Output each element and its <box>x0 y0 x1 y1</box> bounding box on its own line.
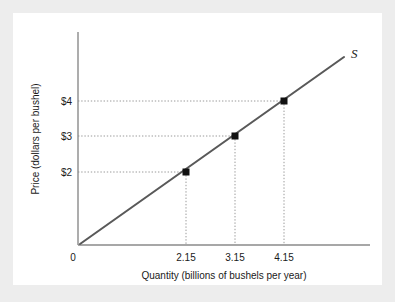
y-axis-title: Price (dollars per bushel) <box>30 83 41 194</box>
x-tick-label-215: 2.15 <box>176 252 196 263</box>
x-axis-title: Quantity (billions of bushels per year) <box>141 270 306 281</box>
y-tick-label-2: $2 <box>61 167 73 178</box>
data-point-marker-415[interactable] <box>281 98 288 105</box>
figure-frame: S $4 $3 $2 2.15 3.15 4.15 0 <box>0 0 395 302</box>
y-axis-tick-labels: $4 $3 $2 <box>61 96 73 178</box>
figure-panel: S $4 $3 $2 2.15 3.15 4.15 0 <box>13 13 382 285</box>
supply-curve-line <box>80 57 344 244</box>
supply-curve-label: S <box>351 46 358 61</box>
supply-curve-series: S <box>80 46 358 244</box>
y-tick-label-3: $3 <box>61 131 73 142</box>
data-point-marker-315[interactable] <box>232 133 239 140</box>
data-point-marker-215[interactable] <box>183 169 190 176</box>
x-axis-tick-labels: 2.15 3.15 4.15 <box>176 252 294 263</box>
chart-axes <box>78 32 370 245</box>
x-tick-label-415: 4.15 <box>274 252 294 263</box>
supply-curve-chart: S $4 $3 $2 2.15 3.15 4.15 0 <box>13 13 382 285</box>
origin-label: 0 <box>70 252 76 263</box>
x-tick-label-315: 3.15 <box>225 252 245 263</box>
y-tick-label-4: $4 <box>61 96 73 107</box>
